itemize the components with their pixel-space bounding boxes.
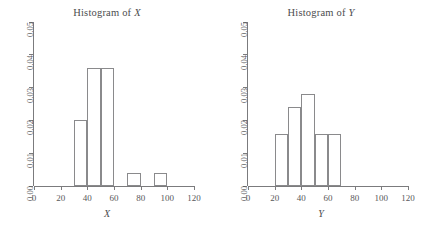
chart-title-y-variable: Y [348,7,354,18]
x-axis-tick-label: 20 [270,193,279,203]
x-axis-x-chart: 020406080100120 [34,186,194,187]
x-axis-tick [194,186,195,190]
chart-panel-y: Histogram of Y 0.000.010.020.030.040.05 … [214,0,428,236]
histogram-bar [127,173,140,186]
x-axis-tick [355,186,356,190]
x-axis-tick [34,186,35,190]
histogram-bar [301,94,314,186]
histogram-bar [101,68,114,186]
x-axis-tick-label: 100 [375,193,389,203]
histogram-bar [288,107,301,186]
x-axis-tick [328,186,329,190]
histogram-figure: Histogram of X 0.000.010.020.030.040.05 … [0,0,428,236]
x-axis-tick-label: 20 [56,193,65,203]
x-axis-tick [87,186,88,190]
chart-title-x-prefix: Histogram of [73,7,134,18]
x-axis-label-y: Y [214,208,428,219]
chart-panel-x: Histogram of X 0.000.010.020.030.040.05 … [0,0,214,236]
x-axis-y-chart: 020406080100120 [248,186,408,187]
x-axis-tick [61,186,62,190]
histogram-bar [328,134,341,186]
x-axis-tick-label: 0 [246,193,251,203]
x-axis-tick-label: 0 [32,193,37,203]
x-axis-tick [141,186,142,190]
x-axis-tick-label: 80 [136,193,145,203]
x-axis-tick [114,186,115,190]
histogram-bar [315,134,328,186]
x-axis-tick [381,186,382,190]
x-axis-tick-label: 100 [161,193,175,203]
x-axis-tick-label: 40 [297,193,306,203]
x-axis-tick-label: 60 [110,193,119,203]
histogram-bar [74,120,87,186]
x-axis-tick-label: 40 [83,193,92,203]
x-axis-tick-label: 60 [324,193,333,203]
x-axis-label-x: X [0,208,214,219]
histogram-bar [154,173,167,186]
x-axis-tick-label: 120 [187,193,201,203]
x-axis-tick [167,186,168,190]
chart-title-y-prefix: Histogram of [288,7,349,18]
x-axis-tick-label: 120 [401,193,415,203]
plot-area-x [34,22,194,186]
chart-title-x-variable: X [134,7,141,18]
plot-area-y [248,22,408,186]
chart-title-y: Histogram of Y [214,7,428,18]
x-axis-tick-label: 80 [350,193,359,203]
histogram-bar [87,68,100,186]
histogram-bar [275,134,288,186]
x-axis-tick [248,186,249,190]
chart-title-x: Histogram of X [0,7,214,18]
x-axis-tick [408,186,409,190]
x-axis-tick [275,186,276,190]
x-axis-tick [301,186,302,190]
